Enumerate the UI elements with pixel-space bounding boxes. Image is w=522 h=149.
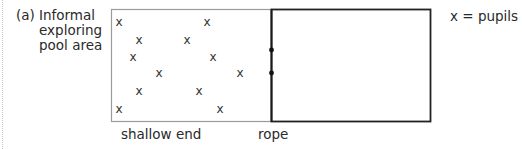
shallow-end-label: shallow end <box>121 126 201 142</box>
pupil-mark: x <box>209 50 216 64</box>
pupil-mark: x <box>203 15 210 29</box>
rope-label: rope <box>258 126 288 142</box>
pupil-mark: x <box>115 102 122 116</box>
pupil-mark: x <box>155 66 162 80</box>
rope-anchor-dot <box>269 71 274 76</box>
pupil-mark: x <box>195 84 202 98</box>
legend-equals: = <box>462 8 473 24</box>
pupil-mark: x <box>216 102 223 116</box>
deep-end-area <box>272 10 431 122</box>
pupil-mark: x <box>129 50 136 64</box>
legend-symbol: x <box>450 8 458 24</box>
pupil-mark: x <box>115 15 122 29</box>
pupil-mark: x <box>183 33 190 47</box>
rope-anchor-dot <box>269 48 274 53</box>
shallow-end-area <box>112 10 272 122</box>
pupil-marks: x x x x x x x x x x x x <box>115 15 243 116</box>
legend: x = pupils <box>450 8 518 24</box>
legend-meaning: pupils <box>478 8 518 24</box>
pupil-mark: x <box>236 66 243 80</box>
pupil-mark: x <box>135 84 142 98</box>
pupil-mark: x <box>135 33 142 47</box>
